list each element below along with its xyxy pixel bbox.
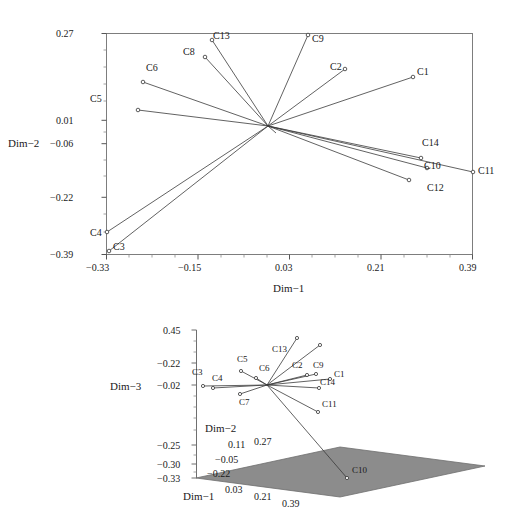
ray-c1 — [268, 77, 413, 126]
top-ytick-4: −0.39 — [50, 250, 73, 260]
top-x-axis-ticks — [107, 255, 473, 260]
bottom-z-axis-title: Dim−3 — [110, 381, 141, 392]
point3d-c13 — [295, 336, 298, 339]
top-label-c8: C8 — [183, 47, 195, 57]
ray-c5 — [138, 110, 268, 126]
ray-c3 — [109, 126, 268, 251]
figure-canvas: 0.27 0.01 −0.06 −0.22 −0.39 −0.33 −0.15 … — [0, 0, 515, 518]
top-x-axis-title: Dim−1 — [273, 283, 304, 294]
top-label-c5: C5 — [90, 94, 102, 104]
bottom-ytick-0: −0.22 — [207, 469, 230, 479]
bottom-ytick-3: 0.27 — [254, 437, 272, 447]
bottom-label-c3: C3 — [192, 368, 203, 377]
bottom-label-c7: C7 — [239, 398, 250, 407]
bottom-xtick-1: 0.21 — [254, 492, 272, 502]
ray-c4 — [107, 126, 268, 232]
bottom-label-c13: C13 — [272, 345, 287, 354]
point-c4 — [105, 230, 109, 234]
ray3d-c11 — [267, 385, 318, 412]
top-label-c3: C3 — [113, 242, 125, 252]
point3d-c10 — [345, 476, 348, 479]
bottom-ytick-1: −0.05 — [215, 455, 238, 465]
top-label-c1: C1 — [417, 67, 429, 77]
ray-c10 — [268, 126, 427, 168]
top-label-c11: C11 — [478, 166, 494, 176]
point-c14 — [419, 156, 423, 160]
top-xtick-3: 0.21 — [367, 263, 385, 273]
point3d-c9 — [314, 372, 317, 375]
point-c6 — [141, 80, 145, 84]
bottom-y-axis-title: Dim−2 — [205, 423, 236, 434]
point-c2 — [343, 67, 347, 71]
point3d-c6 — [254, 376, 257, 379]
bottom-xtick-0: 0.03 — [225, 485, 243, 495]
top-label-c13: C13 — [213, 31, 230, 41]
bottom-xtick-2: 0.39 — [282, 499, 300, 509]
bottom-label-c5: C5 — [237, 355, 248, 364]
bottom-ztick-2: −0.02 — [157, 381, 180, 391]
point-c1 — [411, 75, 415, 79]
point3d-c3 — [201, 384, 204, 387]
bottom-label-c11: C11 — [322, 400, 337, 409]
ray-c6 — [143, 82, 268, 126]
point3d-c7 — [238, 392, 241, 395]
top-label-c4: C4 — [90, 228, 102, 238]
bottom-label-c9: C9 — [313, 361, 324, 370]
point3d-c11 — [316, 410, 319, 413]
bottom-label-c4: C4 — [212, 374, 223, 383]
bottom-label-c6: C6 — [259, 364, 270, 373]
point3d-c4 — [211, 386, 214, 389]
bottom-label-c14: C14 — [320, 378, 335, 387]
ray-c8 — [205, 57, 268, 126]
top-xtick-4: 0.39 — [459, 263, 477, 273]
point-c12 — [407, 178, 411, 182]
point-c8 — [203, 55, 207, 59]
top-ytick-1: 0.01 — [56, 116, 74, 126]
bottom-ytick-2: 0.11 — [228, 440, 245, 450]
ray-c13 — [212, 40, 268, 126]
bottom-ztick-3: −0.25 — [157, 441, 180, 451]
point-c3 — [107, 249, 111, 253]
bottom-x-axis-title: Dim−1 — [183, 491, 214, 502]
point3d-c13b — [318, 343, 321, 346]
ray3d-c14 — [267, 385, 319, 388]
ray-c2 — [268, 69, 345, 126]
top-biplot-svg — [0, 0, 515, 300]
top-label-c12: C12 — [427, 183, 444, 193]
top-ytick-0: 0.27 — [56, 29, 74, 39]
top-xtick-1: −0.15 — [178, 263, 201, 273]
point-c5 — [136, 108, 140, 112]
bottom-label-c1: C1 — [334, 370, 345, 379]
point-c11 — [471, 170, 475, 174]
bottom-ztick-4: −0.30 — [157, 460, 180, 470]
bottom-3d-biplot-svg — [0, 300, 515, 518]
top-ytick-2: −0.06 — [50, 139, 73, 149]
top-y-axis-title: Dim−2 — [8, 138, 39, 149]
point3d-c2 — [305, 373, 308, 376]
bottom-ztick-0: 0.45 — [163, 326, 181, 336]
top-xtick-0: −0.33 — [86, 263, 109, 273]
bottom-label-c2: C2 — [292, 361, 303, 370]
top-label-c9: C9 — [312, 34, 324, 44]
top-label-c6: C6 — [146, 63, 158, 73]
top-label-c14: C14 — [422, 138, 439, 148]
point-c9 — [306, 33, 310, 37]
top-ytick-3: −0.22 — [50, 193, 73, 203]
top-label-c10: C10 — [424, 161, 441, 171]
top-xtick-2: 0.03 — [275, 263, 293, 273]
bottom-ztick-5: −0.33 — [157, 474, 180, 484]
bottom-label-c10: C10 — [352, 466, 367, 475]
point3d-c5 — [239, 369, 242, 372]
bottom-ztick-1: −0.22 — [157, 359, 180, 369]
ray-c9 — [268, 35, 308, 126]
top-label-c2: C2 — [330, 62, 342, 72]
